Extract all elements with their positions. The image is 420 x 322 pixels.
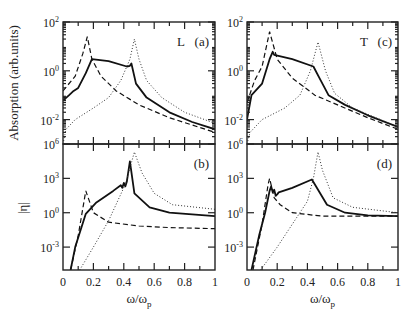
solid-curve — [63, 59, 215, 129]
solid-curve — [247, 52, 398, 127]
y-tick-label: 100 — [43, 206, 59, 221]
dashed-curve — [71, 191, 215, 270]
plot-frame — [247, 144, 398, 270]
polarization-tag: T — [360, 34, 368, 49]
x-tick-label: 1 — [212, 275, 218, 289]
right-column: 10210010-2(c)T 10610310010-3(d) 00.20.40… — [224, 15, 401, 309]
ylabel-absorption: Absorption (arb.units) — [6, 25, 21, 141]
y-tick-label: 106 — [227, 137, 243, 152]
y-tick-label: 10-3 — [224, 240, 243, 255]
panel-a: 10210010-2(a)L — [40, 15, 215, 144]
figure: Absorption (arb.units) |η| 10210010-2(a)… — [0, 0, 420, 322]
y-tick-label: 103 — [227, 171, 243, 186]
panel-label: (c) — [378, 34, 392, 49]
dashed-curve — [63, 37, 215, 133]
x-tick-label: 0.8 — [360, 275, 375, 289]
dashed-curve — [247, 32, 398, 130]
x-tick-label: 0.6 — [147, 275, 162, 289]
solid-curve — [71, 161, 215, 270]
x-axis-left: 00.20.40.60.81ω/ωp — [60, 275, 218, 309]
x-tick-label: 0 — [60, 275, 66, 289]
y-tick-label: 103 — [43, 171, 59, 186]
x-tick-label: 0.6 — [330, 275, 345, 289]
polarization-tag: L — [177, 34, 185, 49]
x-tick-label: 1 — [395, 275, 401, 289]
x-axis-label: ω/ωp — [126, 291, 152, 309]
panel-label: (d) — [377, 156, 392, 171]
x-axis-label: ω/ωp — [310, 291, 336, 309]
dotted-curve — [63, 39, 215, 144]
left-column: 10210010-2(a)L 10610310010-3(b) 00.20.40… — [40, 15, 218, 309]
y-tick-label: 10-3 — [40, 240, 59, 255]
y-tick-label: 10-2 — [224, 113, 243, 128]
y-tick-label: 100 — [43, 64, 59, 79]
x-tick-label: 0.4 — [116, 275, 131, 289]
y-tick-label: 102 — [227, 15, 243, 30]
panel-c: 10210010-2(c)T — [224, 15, 398, 144]
y-tick-label: 106 — [43, 137, 59, 152]
x-tick-label: 0.8 — [177, 275, 192, 289]
y-tick-label: 100 — [227, 206, 243, 221]
panel-d: 10610310010-3(d) — [224, 137, 398, 270]
x-tick-label: 0.2 — [86, 275, 101, 289]
panel-label: (a) — [195, 34, 209, 49]
y-tick-label: 100 — [227, 64, 243, 79]
panel-b: 10610310010-3(b) — [40, 137, 215, 270]
panel-label: (b) — [194, 156, 209, 171]
y-tick-label: 102 — [43, 15, 59, 30]
x-axis-right: 00.20.40.60.81ω/ωp — [244, 275, 401, 309]
x-tick-label: 0.4 — [300, 275, 315, 289]
x-tick-label: 0.2 — [270, 275, 285, 289]
y-tick-label: 10-2 — [40, 113, 59, 128]
plot-frame — [63, 144, 215, 270]
x-tick-label: 0 — [244, 275, 250, 289]
ylabel-eta: |η| — [15, 202, 30, 214]
